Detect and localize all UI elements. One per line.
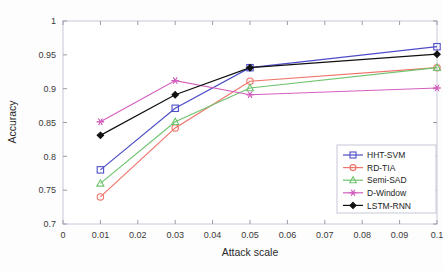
x-tick-label: 0.01 <box>92 230 110 240</box>
legend-label: RD-TIA <box>367 163 396 173</box>
accuracy-vs-attack-scale-chart: 00.010.020.030.040.050.060.070.080.090.1… <box>0 0 443 271</box>
y-tick-label: 0.9 <box>43 84 56 94</box>
x-tick-label: 0.08 <box>353 230 371 240</box>
legend-label: HHT-SVM <box>367 150 405 160</box>
x-tick-label: 0.09 <box>391 230 409 240</box>
y-tick-label: 0.85 <box>38 118 56 128</box>
x-tick-label: 0.02 <box>129 230 147 240</box>
x-tick-label: 0.06 <box>279 230 297 240</box>
x-axis-tick-labels: 00.010.020.030.040.050.060.070.080.090.1 <box>60 230 443 240</box>
legend-label: D-Window <box>367 188 407 198</box>
x-tick-label: 0.04 <box>204 230 222 240</box>
y-axis-tick-labels: 0.70.750.80.850.90.951 <box>38 16 56 229</box>
x-tick-label: 0.05 <box>241 230 259 240</box>
y-tick-label: 0.7 <box>43 219 56 229</box>
chart-figure: 00.010.020.030.040.050.060.070.080.090.1… <box>0 0 443 271</box>
y-tick-label: 0.75 <box>38 185 56 195</box>
y-axis-title: Accuracy <box>6 100 18 144</box>
x-tick-label: 0.07 <box>316 230 334 240</box>
y-tick-label: 0.95 <box>38 50 56 60</box>
x-tick-label: 0.1 <box>431 230 443 240</box>
legend-label: Semi-SAD <box>367 175 407 185</box>
legend-label: LSTM-RNN <box>367 201 411 211</box>
y-tick-label: 0.8 <box>43 152 56 162</box>
x-tick-label: 0.03 <box>166 230 184 240</box>
chart-legend[interactable]: HHT-SVMRD-TIASemi-SADD-WindowLSTM-RNN <box>337 145 436 213</box>
y-tick-label: 1 <box>51 16 56 26</box>
x-axis-title: Attack scale <box>222 246 279 258</box>
x-tick-label: 0 <box>60 230 65 240</box>
